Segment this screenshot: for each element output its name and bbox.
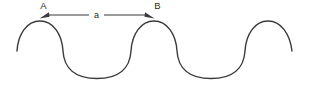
label-dimension-a: a	[94, 10, 99, 20]
arrowhead-left-icon	[40, 12, 50, 18]
label-point-a: A	[40, 0, 47, 11]
wave-curve	[17, 21, 292, 79]
arrowhead-right-icon	[145, 12, 155, 18]
label-point-b: B	[154, 0, 160, 11]
wave-figure: A B a	[0, 0, 310, 86]
wave-diagram-svg: A B a	[0, 0, 310, 86]
